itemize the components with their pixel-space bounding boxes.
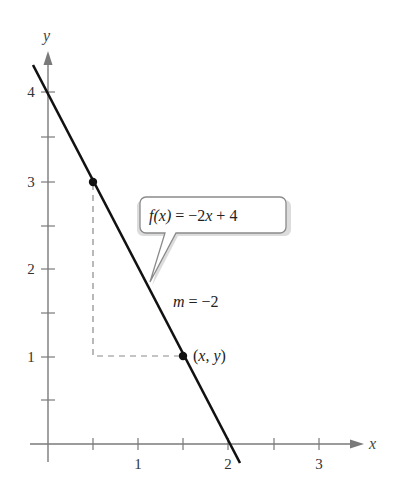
x-tick-label-2: 2 <box>224 456 232 472</box>
linear-function-chart: 1 2 3 1 2 3 4 x y f(x) = −2x + 4 m = −2 … <box>0 0 395 491</box>
y-tick-label-2: 2 <box>27 261 35 277</box>
y-tick-label-1: 1 <box>27 349 35 365</box>
x-tick-label-1: 1 <box>134 456 142 472</box>
point-x-y <box>179 352 187 360</box>
y-tick-label-3: 3 <box>27 174 35 190</box>
y-axis-arrow-icon <box>44 51 53 65</box>
x-tick-label-3: 3 <box>315 456 323 472</box>
y-tick-label-4: 4 <box>27 84 35 100</box>
function-callout: f(x) = −2x + 4 <box>137 197 291 286</box>
y-axis-label: y <box>41 27 51 45</box>
callout-equation: f(x) = −2x + 4 <box>149 207 237 225</box>
slope-label: m = −2 <box>173 293 219 310</box>
point-0.5-3 <box>89 178 97 186</box>
x-axis-arrow-icon <box>350 440 364 449</box>
x-axis-label: x <box>368 435 376 452</box>
axes <box>30 51 364 462</box>
function-line <box>33 65 240 463</box>
point-label: (x, y) <box>193 347 226 365</box>
